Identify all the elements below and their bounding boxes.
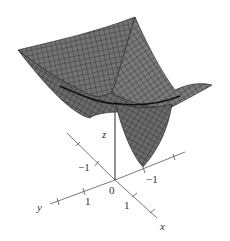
- x-axis-label: x: [159, 220, 165, 232]
- origin-label: 0: [109, 184, 115, 196]
- surface-plot: z y x 0 −1 1 −1 1: [0, 0, 230, 241]
- z-axis-label: z: [101, 128, 107, 140]
- x-pos-tick-label: 1: [124, 199, 130, 211]
- surface-trough: [115, 102, 172, 167]
- y-neg-tick-label: −1: [78, 161, 90, 173]
- x-tick-pos2: [150, 209, 155, 213]
- x-neg-tick-label: −1: [146, 173, 158, 185]
- x-tick-pos1: [132, 193, 137, 197]
- y-pos-tick-label: 1: [85, 195, 91, 207]
- y-axis-pos: [50, 180, 115, 204]
- y-axis-neg: [67, 133, 115, 180]
- y-axis-label: y: [36, 201, 42, 213]
- y-axis-line: [48, 134, 68, 205]
